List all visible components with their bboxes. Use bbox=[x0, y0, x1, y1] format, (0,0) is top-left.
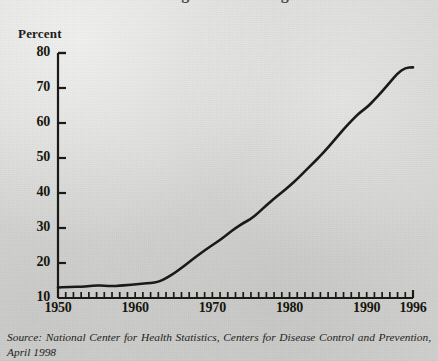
data-series-line bbox=[58, 67, 413, 287]
y-tick-label: 70 bbox=[16, 79, 50, 95]
y-tick-label: 60 bbox=[16, 114, 50, 130]
axes bbox=[58, 53, 413, 298]
source-note-text: Source: National Center for Health Stati… bbox=[7, 331, 431, 358]
y-tick-label: 80 bbox=[16, 44, 50, 60]
y-tick-marks bbox=[58, 53, 66, 263]
x-tick-label: 1970 bbox=[187, 300, 237, 316]
x-tick-marks bbox=[58, 292, 413, 298]
x-tick-label: 1996 bbox=[388, 300, 438, 316]
figure-container: Percentage of Overweight Americans Perce… bbox=[0, 0, 438, 361]
y-tick-label: 40 bbox=[16, 184, 50, 200]
source-note: Source: National Center for Health Stati… bbox=[7, 330, 431, 359]
x-tick-label: 1980 bbox=[265, 300, 315, 316]
y-tick-label: 20 bbox=[16, 254, 50, 270]
x-tick-label: 1960 bbox=[110, 300, 160, 316]
x-tick-label: 1950 bbox=[33, 300, 83, 316]
y-tick-label: 30 bbox=[16, 219, 50, 235]
y-tick-label: 50 bbox=[16, 149, 50, 165]
x-tick-label: 1990 bbox=[342, 300, 392, 316]
